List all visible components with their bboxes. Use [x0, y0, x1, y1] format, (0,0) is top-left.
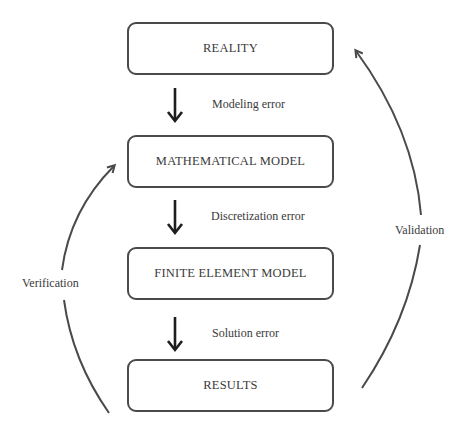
validation-curve-arrow	[362, 245, 420, 388]
box-finite-element-model: FINITE ELEMENT MODEL	[127, 247, 334, 300]
down-arrow-icon	[168, 88, 182, 121]
verification-label: Verification	[22, 276, 79, 291]
diagram-canvas: REALITY MATHEMATICAL MODEL FINITE ELEMEN…	[0, 0, 473, 435]
box-mathematical-model: MATHEMATICAL MODEL	[127, 135, 334, 188]
validation-label: Validation	[395, 223, 444, 238]
down-arrow-icon	[168, 317, 182, 350]
modeling-error-label: Modeling error	[212, 97, 285, 112]
solution-error-label: Solution error	[212, 326, 279, 341]
verification-curve-arrow	[64, 300, 109, 413]
down-arrow-icon	[168, 200, 182, 233]
discretization-error-label: Discretization error	[211, 209, 305, 224]
box-results: RESULTS	[127, 359, 334, 412]
box-reality: REALITY	[127, 22, 334, 75]
